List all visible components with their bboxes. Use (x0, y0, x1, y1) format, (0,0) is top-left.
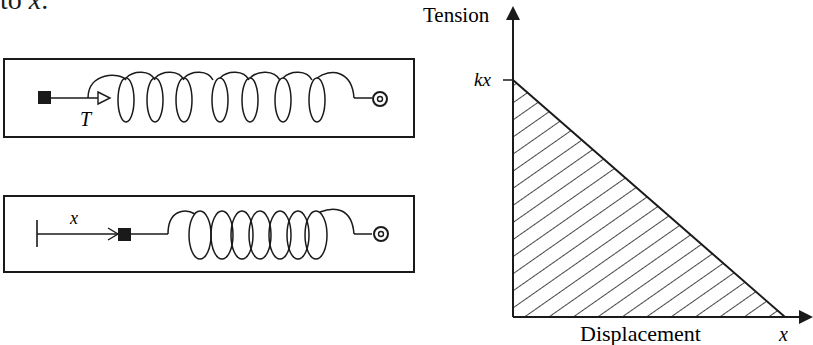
spring-bottom (168, 209, 372, 259)
y-axis-label: Tension (423, 3, 490, 27)
y-tick-label: kx (474, 69, 491, 90)
physics-diagram: T x Tension k (0, 0, 813, 345)
mass-block-top (38, 91, 51, 104)
y-axis-arrow-icon (506, 6, 520, 20)
bottom-spring-panel: x (4, 196, 414, 272)
x-end-label: x (778, 323, 788, 345)
mass-block-bottom (118, 228, 131, 241)
tension-displacement-graph: Tension kx Displacement x (423, 3, 813, 345)
wall-pin-icon (373, 92, 387, 106)
x-axis-arrow-icon (799, 310, 813, 324)
wall-pin-icon (374, 227, 388, 241)
tension-label: T (80, 108, 93, 130)
displacement-label: x (69, 208, 78, 228)
top-spring-panel: T (4, 59, 414, 137)
tension-arrow-icon (98, 92, 110, 104)
spring-top (88, 72, 372, 122)
x-axis-label: Displacement (580, 321, 701, 345)
